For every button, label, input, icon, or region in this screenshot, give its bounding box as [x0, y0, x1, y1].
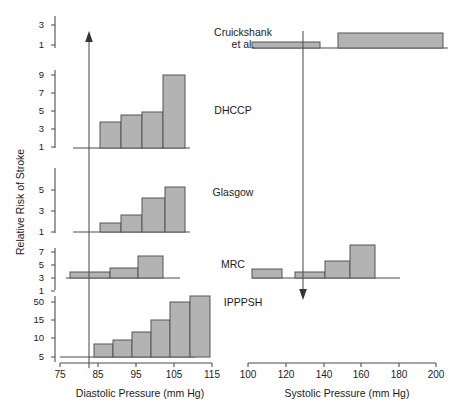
study-label-ipppsh: IPPPSH [208, 296, 278, 308]
bar [252, 269, 282, 278]
bar [142, 112, 163, 148]
xtick-systolic-200: 200 [422, 370, 450, 380]
bar [165, 187, 185, 232]
bar [190, 296, 210, 357]
bar [70, 272, 110, 278]
ytick-mrc-5: 5 [22, 260, 44, 270]
panel-glasgow [73, 187, 190, 232]
reference-arrow-systolic [299, 31, 307, 300]
panel-mrc-systolic [252, 245, 400, 278]
xtick-systolic-140: 140 [310, 370, 338, 380]
ytick-dhccp-3: 3 [22, 124, 44, 134]
panel-dhccp [73, 75, 190, 148]
study-label-dhccp: DHCCP [198, 104, 268, 116]
bar [113, 340, 132, 357]
ytick-ipppsh-5: 5 [18, 352, 44, 362]
bar [132, 332, 151, 357]
x-axis-systolic [248, 363, 436, 367]
xtick-diastolic-95: 95 [122, 370, 150, 380]
bar [110, 268, 138, 278]
ytick-ipppsh-10: 10 [18, 333, 44, 343]
bar [151, 320, 170, 357]
xtick-diastolic-75: 75 [46, 370, 74, 380]
xtick-systolic-120: 120 [272, 370, 300, 380]
x-axis-title-diastolic: Diastolic Pressure (mm Hg) [60, 387, 220, 399]
bar [100, 223, 121, 232]
xtick-systolic-160: 160 [347, 370, 375, 380]
bar [325, 261, 350, 278]
ytick-dhccp-5: 5 [22, 106, 44, 116]
bar [295, 272, 325, 278]
bar [94, 344, 113, 357]
study-label-glasgow: Glasgow [198, 186, 268, 198]
bar [170, 302, 190, 357]
study-label-mrc: MRC [198, 258, 268, 270]
ytick-ipppsh-50: 50 [18, 297, 44, 307]
xtick-diastolic-115: 115 [198, 370, 226, 380]
reference-arrow-diastolic [85, 31, 93, 368]
x-axis-diastolic [60, 363, 212, 367]
ytick-cruickshank-1: 1 [22, 40, 44, 50]
bar [121, 215, 142, 232]
bar [338, 33, 443, 48]
bar [142, 198, 165, 232]
chart-canvas [0, 0, 450, 408]
y-tick-marks [51, 25, 55, 357]
ytick-ipppsh-15: 15 [18, 315, 44, 325]
ytick-cruickshank-3: 3 [22, 20, 44, 30]
study-label-cruickshank-line2: et al. [198, 38, 288, 50]
xtick-diastolic-85: 85 [84, 370, 112, 380]
ytick-dhccp-9: 9 [22, 70, 44, 80]
ytick-mrc-3: 3 [22, 273, 44, 283]
bar [350, 245, 375, 278]
xtick-systolic-180: 180 [385, 370, 413, 380]
y-axis-title: Relative Risk of Stroke [14, 149, 26, 255]
bar [100, 122, 121, 148]
stroke-risk-figure: 3 1 9 7 5 3 1 5 3 1 7 5 3 1 50 15 10 5 7… [0, 0, 450, 408]
xtick-diastolic-105: 105 [160, 370, 188, 380]
xtick-systolic-100: 100 [234, 370, 262, 380]
ytick-dhccp-7: 7 [22, 88, 44, 98]
ytick-mrc-1: 1 [22, 286, 44, 296]
bar [163, 75, 185, 148]
bar [121, 115, 142, 148]
panel-mrc-diastolic [66, 256, 180, 278]
x-axis-title-systolic: Systolic Pressure (mm Hg) [262, 387, 432, 399]
panel-ipppsh [60, 296, 210, 357]
study-label-cruickshank-line1: Cruickshank [198, 26, 288, 38]
bar [138, 256, 163, 278]
